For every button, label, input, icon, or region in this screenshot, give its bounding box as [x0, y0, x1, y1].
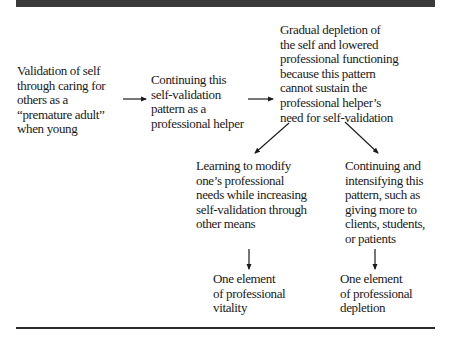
arrow-n3-to-n4 — [255, 123, 289, 153]
bottom-rule — [16, 327, 435, 329]
arrow-n3-to-n5 — [345, 122, 378, 153]
flow-arrows — [0, 0, 450, 339]
